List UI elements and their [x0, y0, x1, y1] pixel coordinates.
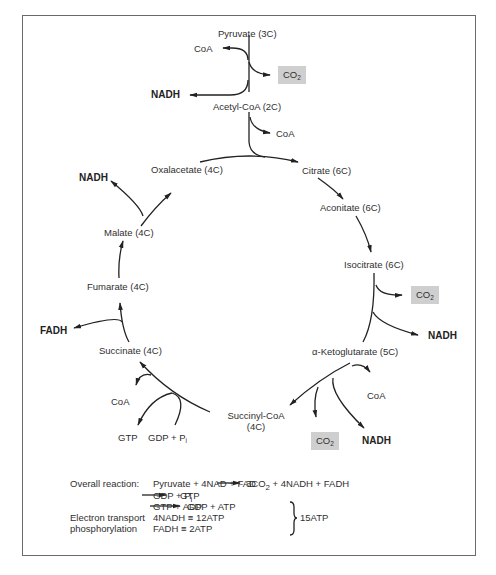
arrow-coa-in: [223, 48, 248, 60]
arrow-coa-ketoglutarate: [352, 365, 370, 372]
arrow-acetylcoa-cycle: [249, 112, 265, 157]
label-acetyl-coa: Acetyl-CoA (2C): [213, 101, 281, 112]
label-citrate: Citrate (6C): [302, 165, 351, 176]
label-coa-ketoglutarate: CoA: [367, 390, 385, 401]
label-nadh-ketoglutarate: NADH: [362, 435, 391, 446]
arrow-gdp-pi: [172, 393, 181, 425]
arrow-coa-succinyl: [136, 374, 151, 385]
arrow-aconitate-isocitrate: [356, 216, 371, 252]
label-nadh-isocitrate: NADH: [428, 330, 457, 341]
label-isocitrate: Isocitrate (6C): [344, 259, 404, 270]
products-co2: 3CO: [246, 478, 266, 489]
arrow-fadh: [74, 320, 122, 328]
arrow-co2-ketoglutarate: [315, 387, 318, 417]
arrow-succinate-fumarate: [120, 303, 129, 342]
label-pyruvate: Pyruvate (3C): [218, 28, 277, 39]
label-coa-succinyl: CoA: [111, 396, 129, 407]
summary-et-label-2: phosphorylation: [70, 523, 137, 534]
summary-et-line2: FADH ≡ 2ATP: [153, 523, 212, 534]
arrow-isocitrate-ketoglutarate: [363, 273, 374, 342]
label-fumarate: Fumarate (4C): [87, 281, 149, 292]
arrow-nadh-isocitrate: [373, 312, 418, 335]
summary-line2-right: GTP: [180, 490, 200, 501]
label-succinate: Succinate (4C): [99, 345, 162, 356]
summary-total: 15ATP: [300, 512, 328, 523]
arrow-nadh-pyruvate: [190, 80, 248, 95]
label-coa-out: CoA: [276, 128, 294, 139]
arrow-malate-oxalacetate: [141, 193, 171, 226]
co2-text: CO: [316, 435, 330, 446]
gdp-pi-text: GDP + P: [148, 432, 186, 443]
arrow-succinylcoa-succinate: [140, 362, 210, 412]
summary-line3-right: GDP + ATP: [187, 501, 236, 512]
label-succinyl-coa: Succinyl-CoA (4C): [215, 410, 297, 432]
arrow-oxalacetate-citrate: [200, 156, 298, 162]
label-ketoglutarate: α-Ketoglutarate (5C): [312, 346, 398, 357]
gdp-pi-subscript: i: [186, 437, 187, 444]
arrow-fumarate-malate: [119, 241, 123, 278]
co2-subscript: 2: [430, 294, 434, 301]
arrow-co2-isocitrate: [376, 285, 402, 295]
co2-text: CO: [416, 289, 430, 300]
arrow-nadh-ketoglutarate: [333, 378, 364, 428]
arrow-coa-out: [250, 117, 270, 133]
summary-overall-reactants: Pyruvate + 4NAD + FAD: [153, 478, 256, 489]
products-rest: + 4NADH + FADH: [270, 478, 349, 489]
summary-overall-products: 3CO2 + 4NADH + FADH: [246, 478, 349, 492]
label-fadh: FADH: [40, 325, 67, 336]
co2-text: CO: [283, 69, 297, 80]
label-nadh-pyruvate: NADH: [151, 89, 180, 100]
label-succinyl-coa-line2: (4C): [215, 421, 297, 432]
co2-badge-isocitrate: CO2: [411, 286, 439, 304]
arrow-gtp: [138, 393, 172, 425]
arrow-nadh-malate: [111, 181, 143, 216]
co2-subscript: 2: [297, 74, 301, 81]
co2-badge-ketoglutarate: CO2: [311, 432, 339, 450]
label-coa-in: CoA: [194, 43, 212, 54]
summary-et-line1: 4NADH ≡ 12ATP: [153, 512, 224, 523]
summary-brace: [290, 502, 297, 535]
arrow-ketoglutarate-succinylcoa: [290, 363, 350, 405]
label-gtp: GTP: [118, 432, 138, 443]
label-succinyl-coa-line1: Succinyl-CoA: [215, 410, 297, 421]
label-nadh-malate: NADH: [79, 172, 108, 183]
co2-subscript: 2: [330, 440, 334, 447]
label-oxalacetate: Oxalacetate (4C): [151, 164, 223, 175]
label-gdp-pi: GDP + Pi: [148, 432, 187, 444]
label-malate: Malate (4C): [104, 227, 154, 238]
label-aconitate: Aconitate (6C): [320, 202, 381, 213]
arrow-citrate-aconitate: [318, 178, 343, 199]
summary-et-label-1: Electron transport: [70, 512, 145, 523]
arrow-co2-pyruvate: [249, 62, 270, 75]
co2-badge-pyruvate: CO2: [278, 66, 306, 84]
summary-overall-label: Overall reaction:: [70, 478, 139, 489]
